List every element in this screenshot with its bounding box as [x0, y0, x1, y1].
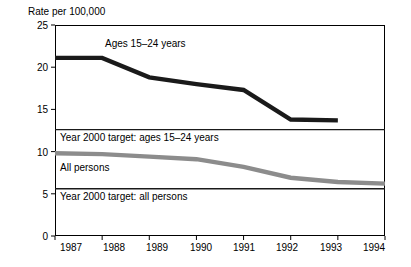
- x-axis-ticks: [55, 236, 385, 240]
- chart-figure: Rate per 100,000 0 5 10 15 20 25 1987 19…: [0, 0, 411, 267]
- y-axis-ticks: [51, 25, 55, 236]
- annotation-target-ages: Year 2000 target: ages 15–24 years: [60, 132, 219, 143]
- annotation-ages-series: Ages 15–24 years: [105, 38, 186, 49]
- annotation-target-all-persons: Year 2000 target: all persons: [60, 191, 188, 202]
- annotation-all-persons-series: All persons: [60, 162, 109, 173]
